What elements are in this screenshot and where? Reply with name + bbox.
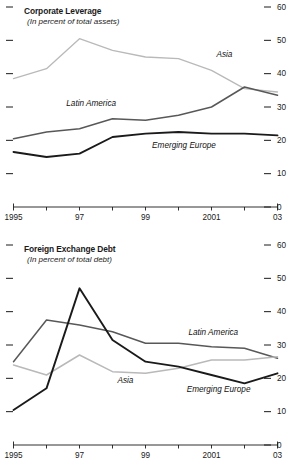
foreign-exchange-debt-plot bbox=[0, 238, 301, 476]
y-axis-tick-label: 20 bbox=[277, 374, 286, 383]
y-axis-tick-label: 60 bbox=[277, 241, 286, 250]
panel-title-foreign-exchange-debt: Foreign Exchange Debt bbox=[24, 244, 115, 254]
series-label-asia: Asia bbox=[216, 50, 232, 59]
chart-panel-foreign-exchange-debt: Foreign Exchange Debt (In percent of tot… bbox=[0, 238, 301, 476]
x-axis-tick-label: 97 bbox=[64, 213, 96, 222]
series-label-latin-america: Latin America bbox=[66, 99, 116, 108]
x-axis-tick-label: 2001 bbox=[196, 213, 228, 222]
y-axis-tick-label: 60 bbox=[277, 3, 286, 12]
y-axis-tick-label: 10 bbox=[277, 407, 286, 416]
x-axis-tick-label: 03 bbox=[262, 451, 294, 460]
y-axis-tick-label: 40 bbox=[277, 307, 286, 316]
chart-panel-corporate-leverage: Corporate Leverage (In percent of total … bbox=[0, 0, 301, 238]
x-axis-tick-label: 99 bbox=[130, 213, 162, 222]
y-axis-tick-label: 0 bbox=[277, 441, 282, 450]
y-axis-tick-label: 40 bbox=[277, 69, 286, 78]
x-axis-tick-label: 2001 bbox=[196, 451, 228, 460]
series-label-emerging-europe: Emerging Europe bbox=[152, 141, 216, 150]
series-label-emerging-europe: Emerging Europe bbox=[187, 385, 251, 394]
y-axis-tick-label: 20 bbox=[277, 136, 286, 145]
x-axis-tick-label: 97 bbox=[64, 451, 96, 460]
x-axis-tick-label: 1995 bbox=[0, 451, 30, 460]
y-axis-tick-label: 0 bbox=[277, 203, 282, 212]
y-axis-tick-label: 30 bbox=[277, 103, 286, 112]
series-label-latin-america: Latin America bbox=[188, 328, 238, 337]
figure-corporate-leverage-fx-debt: Corporate Leverage (In percent of total … bbox=[0, 0, 301, 476]
series-label-asia: Asia bbox=[117, 376, 133, 385]
y-axis-tick-label: 50 bbox=[277, 274, 286, 283]
y-axis-tick-label: 50 bbox=[277, 36, 286, 45]
corporate-leverage-plot bbox=[0, 0, 301, 238]
y-axis-tick-label: 10 bbox=[277, 169, 286, 178]
panel-subtitle-foreign-exchange-debt: (In percent of total debt) bbox=[27, 255, 112, 265]
x-axis-tick-label: 03 bbox=[262, 213, 294, 222]
y-axis-tick-label: 30 bbox=[277, 341, 286, 350]
panel-title-corporate-leverage: Corporate Leverage bbox=[24, 6, 101, 16]
x-axis-tick-label: 1995 bbox=[0, 213, 30, 222]
x-axis-tick-label: 99 bbox=[130, 451, 162, 460]
panel-subtitle-corporate-leverage: (In percent of total assets) bbox=[27, 17, 120, 27]
